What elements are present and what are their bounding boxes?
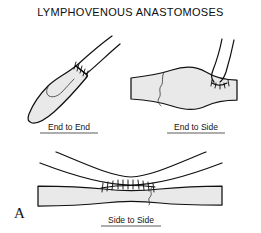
side-to-side-label: Side to Side (108, 215, 154, 225)
end-to-end-label: End to End (48, 122, 90, 132)
panel-letter: A (14, 205, 25, 221)
figure-canvas: LYMPHOVENOUS ANASTOMOSES End to End (0, 0, 261, 233)
end-to-side-label: End to Side (174, 122, 218, 132)
figure-title: LYMPHOVENOUS ANASTOMOSES (37, 6, 224, 18)
lymphovenous-anastomoses-figure: LYMPHOVENOUS ANASTOMOSES End to End (0, 0, 261, 233)
